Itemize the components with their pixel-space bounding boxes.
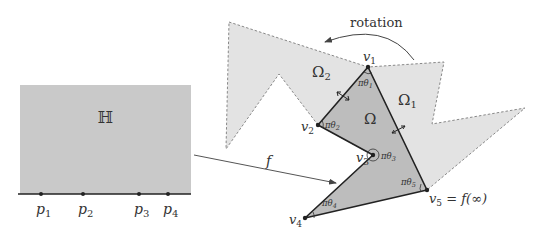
prevertex-p2: p2 (78, 201, 93, 219)
omega-label: Ω (364, 110, 376, 128)
vertex-v4: v4 (289, 212, 302, 229)
vertex-v1: v1 (363, 49, 376, 66)
map-arrow: f (194, 153, 336, 183)
prevertex-p3: p3 (134, 201, 149, 219)
map-label: f (265, 153, 274, 169)
prevertex-p1: p1 (36, 201, 51, 219)
vertex-v2: v2 (301, 119, 314, 136)
rotation-label: rotation (350, 15, 403, 30)
half-plane-label: ℍ (97, 108, 112, 127)
conformal-map-diagram: ℍ p1 p2 p3 p4 f rotation Ω Ω2 Ω1 (0, 0, 546, 237)
vertex-v5: v5 = f(∞) (429, 191, 487, 208)
prevertex-p4: p4 (163, 201, 178, 219)
upper-half-plane: ℍ p1 p2 p3 p4 (18, 85, 191, 219)
